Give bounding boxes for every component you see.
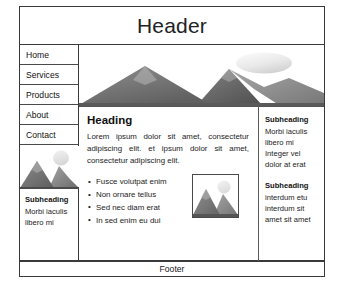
sidebar-subheading: Subheading (25, 195, 75, 204)
sidebar-mountain-sun-image (20, 146, 79, 189)
sidebar-line: Morbi iaculis (25, 206, 75, 217)
right-line: interdum etu (265, 192, 320, 203)
nav-item-label: Contact (26, 130, 56, 140)
nav-item-about[interactable]: About (20, 105, 78, 125)
hero-banner-image (79, 45, 324, 107)
nav-item-products[interactable]: Products (20, 85, 78, 105)
right-line: amet sit amet (265, 214, 320, 225)
header-region: Header (19, 6, 325, 45)
nav-item-contact[interactable]: Contact (20, 125, 78, 145)
right-line: dolor at erat (265, 159, 320, 170)
main-navigation: Home Services Products About Contact (20, 45, 78, 145)
nav-item-home[interactable]: Home (20, 45, 78, 65)
right-subheading: Subheading (265, 115, 320, 125)
content-heading: Heading (87, 114, 249, 127)
right-line: Morbi iaculis (265, 126, 320, 137)
content-paragraph: Lorem ipsum dolor sit amet, consectetur … (87, 131, 249, 168)
right-sidebar-block: Subheading interdum etu interdum sit ame… (265, 181, 320, 225)
nav-item-label: About (26, 110, 48, 120)
right-sidebar-block: Subheading Morbi iaculis libero mi Integ… (265, 115, 320, 170)
right-line: Integer vel (265, 148, 320, 159)
left-sidebar: Home Services Products About Contact (20, 45, 79, 260)
page-frame: Header Home Services Products Abou (19, 6, 325, 277)
page-title: Header (137, 15, 207, 36)
content-mountain-sun-thumbnail (192, 174, 239, 218)
main-content: Heading Lorem ipsum dolor sit amet, cons… (79, 107, 259, 261)
sidebar-text-block: Subheading Morbi iaculis libero mi (20, 189, 79, 228)
footer-label: Footer (160, 264, 185, 274)
nav-item-label: Home (26, 50, 49, 60)
right-line: libero mi (265, 137, 320, 148)
sidebar-line: libero mi (25, 217, 75, 228)
nav-item-services[interactable]: Services (20, 65, 78, 85)
nav-item-label: Services (26, 70, 59, 80)
wireframe-page: Header Home Services Products Abou (0, 0, 337, 285)
nav-item-label: Products (26, 90, 60, 100)
body-region: Home Services Products About Contact (19, 45, 325, 261)
right-line: interdum sit (265, 203, 320, 214)
right-sidebar: Subheading Morbi iaculis libero mi Integ… (259, 107, 324, 261)
footer-region: Footer (19, 261, 325, 277)
right-subheading: Subheading (265, 181, 320, 191)
